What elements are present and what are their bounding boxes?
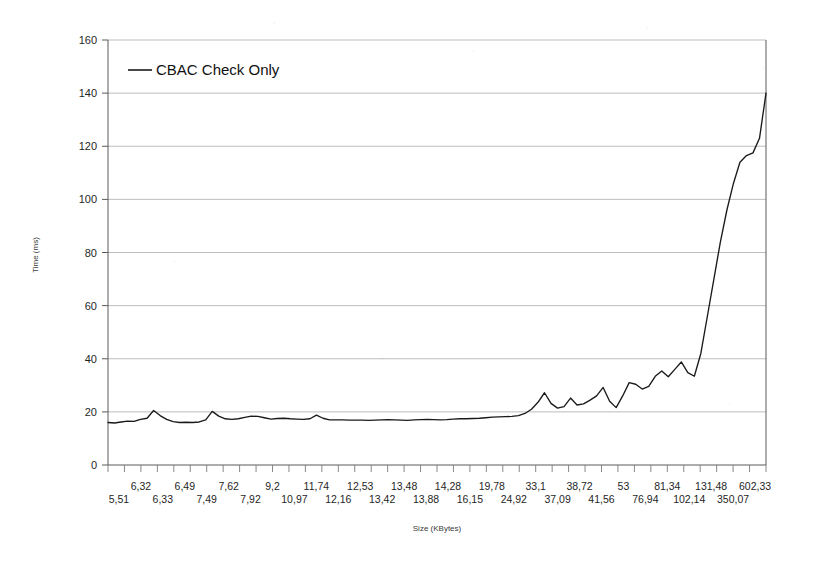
x-tick-label-23: 53: [618, 480, 630, 492]
y-axis-ticks: 020406080100120140160: [79, 34, 108, 471]
x-tick-label-22: 41,56: [588, 493, 614, 505]
x-tick-label-8: 10,97: [281, 493, 307, 505]
legend-label-cbac-check-only: CBAC Check Only: [156, 61, 280, 78]
x-tick-label-19: 33,1: [525, 480, 546, 492]
x-tick-label-3: 6,49: [175, 480, 196, 492]
x-tick-label-13: 13,48: [391, 480, 417, 492]
y-tick-label-60: 60: [85, 300, 97, 312]
y-tick-label-0: 0: [91, 459, 97, 471]
x-tick-label-12: 13,42: [369, 493, 395, 505]
x-tick-label-6: 7,92: [240, 493, 261, 505]
x-tick-label-7: 9,2: [265, 480, 280, 492]
y-tick-label-40: 40: [85, 353, 97, 365]
x-tick-label-5: 7,62: [218, 480, 239, 492]
y-tick-label-100: 100: [79, 193, 97, 205]
x-tick-label-14: 13,88: [413, 493, 439, 505]
x-tick-label-10: 12,16: [325, 493, 351, 505]
x-tick-label-2: 6,33: [153, 493, 174, 505]
x-tick-label-1: 6,32: [131, 480, 152, 492]
y-tick-label-140: 140: [79, 87, 97, 99]
x-tick-label-16: 16,15: [457, 493, 483, 505]
x-tick-label-24: 76,94: [632, 493, 658, 505]
x-tick-label-4: 7,49: [196, 493, 217, 505]
x-tick-label-21: 38,72: [566, 480, 592, 492]
series-cbac-check-only: [108, 93, 766, 423]
y-tick-label-120: 120: [79, 140, 97, 152]
x-tick-label-15: 14,28: [435, 480, 461, 492]
x-tick-label-29: 602,33: [739, 480, 771, 492]
x-axis-ticks: [108, 465, 766, 472]
x-axis-title: Size (KBytes): [413, 524, 462, 533]
x-tick-label-17: 19,78: [479, 480, 505, 492]
x-tick-label-25: 81,34: [654, 480, 680, 492]
x-tick-label-20: 37,09: [544, 493, 570, 505]
x-axis-labels: 5,516,326,336,497,497,627,929,210,9711,7…: [109, 480, 771, 505]
x-tick-label-18: 24,92: [501, 493, 527, 505]
y-axis-title: Time (ms): [31, 237, 40, 273]
x-tick-label-11: 12,53: [347, 480, 373, 492]
chart-legend: CBAC Check Only: [128, 61, 280, 78]
y-tick-label-20: 20: [85, 406, 97, 418]
chart-container: 020406080100120140160 5,516,326,336,497,…: [0, 0, 830, 569]
x-tick-label-26: 102,14: [673, 493, 705, 505]
y-tick-label-160: 160: [79, 34, 97, 46]
x-tick-label-28: 350,07: [717, 493, 749, 505]
line-chart: 020406080100120140160 5,516,326,336,497,…: [0, 0, 830, 569]
x-tick-label-9: 11,74: [304, 480, 330, 492]
x-tick-label-0: 5,51: [109, 493, 130, 505]
y-tick-label-80: 80: [85, 247, 97, 259]
x-tick-label-27: 131,48: [695, 480, 727, 492]
gridlines-group: [108, 40, 766, 412]
